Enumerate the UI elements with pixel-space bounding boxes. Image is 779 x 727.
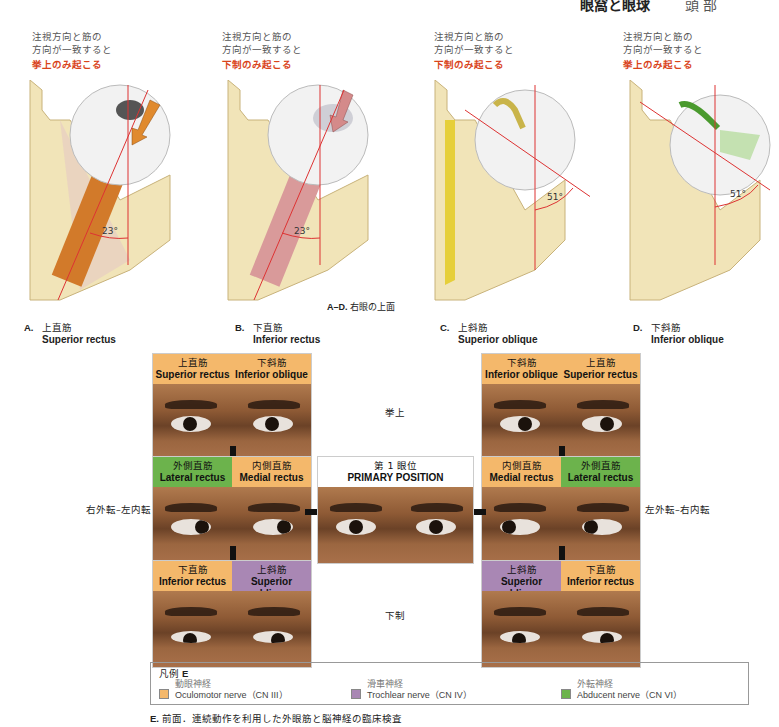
label-left-abduction: 左外転–右内転 xyxy=(645,502,710,516)
caption-b: B.下直筋 Inferior rectus xyxy=(235,322,320,346)
caption-a: A.上直筋 Superior rectus xyxy=(24,322,116,346)
swatch-orange xyxy=(159,689,169,699)
illustration-superior-oblique: 51° xyxy=(425,80,590,305)
legend-item-oculomotor: 動眼神経Oculomotor nerve（CN III） xyxy=(159,679,288,701)
svg-text:23°: 23° xyxy=(294,226,310,236)
label-right-abduction: 右外転–左内転 xyxy=(86,502,151,516)
legend: 凡例 E 動眼神経Oculomotor nerve（CN III） 滑車神経Tr… xyxy=(150,662,749,705)
page-header: 眼窩と眼球 頭 部 xyxy=(580,0,717,14)
photo-bottom-right: 上斜筋Superior oblique 下直筋Inferior rectus xyxy=(481,560,641,668)
legend-item-abducent: 外転神経Abducent nerve（CN VI） xyxy=(561,679,682,701)
photo-top-left: 上直筋Superior rectus 下斜筋Inferior oblique xyxy=(152,353,312,461)
caption-c: C.上斜筋 Superior oblique xyxy=(440,322,537,346)
arrow-right xyxy=(474,509,486,515)
swatch-purple xyxy=(351,689,361,699)
angle-label: 23° xyxy=(102,226,118,236)
caption-d: D.下斜筋 Inferior oblique xyxy=(633,322,724,346)
illustration-superior-rectus: 23° xyxy=(20,80,190,305)
arrow-left xyxy=(305,509,317,515)
label-depression: 下制 xyxy=(385,608,405,622)
chapter-title: 眼窩と眼球 xyxy=(580,0,650,13)
svg-text:51°: 51° xyxy=(547,192,563,202)
swatch-green xyxy=(561,689,571,699)
photo-primary-position: 第 1 眼位PRIMARY POSITION xyxy=(317,456,474,564)
photo-top-right: 下斜筋Inferior oblique 上直筋Superior rectus xyxy=(481,353,641,461)
note-d: 注視方向と筋の方向が一致すると挙上のみ起こる xyxy=(623,30,703,71)
label-elevation: 挙上 xyxy=(385,405,405,419)
svg-text:51°: 51° xyxy=(730,189,746,199)
legend-item-trochlear: 滑車神経Trochlear nerve（CN IV） xyxy=(351,679,472,701)
illustration-inferior-rectus: 23° xyxy=(218,80,388,305)
photo-bottom-left: 下直筋Inferior rectus 上斜筋Superior oblique xyxy=(152,560,312,668)
note-c: 注視方向と筋の方向が一致すると下制のみ起こる xyxy=(434,30,514,71)
note-b: 注視方向と筋の方向が一致すると下制のみ起こる xyxy=(222,30,302,71)
caption-ad: A–D. 右眼の上面 xyxy=(327,300,395,313)
section-title: 頭 部 xyxy=(685,0,717,13)
note-a: 注視方向と筋の方向が一致すると挙上のみ起こる xyxy=(32,30,112,71)
figure-caption-e: E. 前面．連続動作を利用した外眼筋と脳神経の臨床検査 xyxy=(150,711,402,725)
legend-title: 凡例 E xyxy=(159,666,188,680)
illustration-inferior-oblique: 51° xyxy=(620,80,779,305)
